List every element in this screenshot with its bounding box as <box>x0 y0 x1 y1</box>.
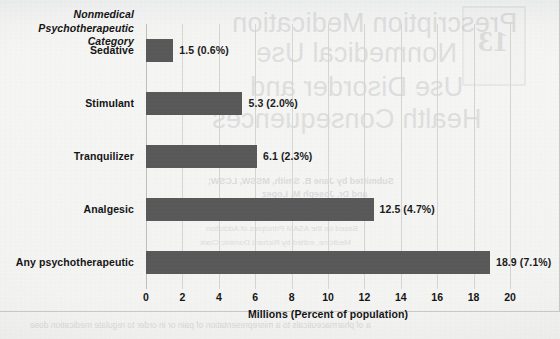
gridline-20 <box>510 24 511 289</box>
x-axis-tick-label: 4 <box>216 291 222 303</box>
y-axis-title-line-1: Nonmedical <box>0 8 134 22</box>
chart-page: Prescription Medication Nonmedical Use U… <box>0 0 560 339</box>
x-axis-tick-label: 2 <box>179 291 185 303</box>
x-axis-tick-label: 14 <box>395 291 407 303</box>
x-axis-tick-label: 8 <box>289 291 295 303</box>
bar-value-label: 6.1 (2.3%) <box>263 150 312 162</box>
bar <box>146 39 173 62</box>
bar-row: 18.9 (7.1%) <box>146 236 510 289</box>
y-axis-tick-label: Sedative <box>90 44 134 56</box>
y-axis-tick-label: Stimulant <box>85 97 134 109</box>
x-axis-tick-label: 6 <box>252 291 258 303</box>
bar-row: 1.5 (0.6%) <box>146 24 510 77</box>
bar-row: 6.1 (2.3%) <box>146 130 510 183</box>
y-axis-tick-label: Analgesic <box>83 203 134 215</box>
x-axis-title: Millions (Percent of population) <box>146 308 510 320</box>
plot-area: 1.5 (0.6%)5.3 (2.0%)6.1 (2.3%)12.5 (4.7%… <box>146 24 510 289</box>
bar <box>146 198 374 221</box>
y-axis-tick-label: Tranquilizer <box>74 150 134 162</box>
bar <box>146 145 257 168</box>
bleed-footer: a of pharmaceuticals to a misrepresentat… <box>30 320 371 330</box>
bar-value-label: 12.5 (4.7%) <box>380 203 435 215</box>
x-axis-tick-label: 16 <box>431 291 443 303</box>
bar <box>146 251 490 274</box>
bar-row: 5.3 (2.0%) <box>146 77 510 130</box>
x-axis-tick-label: 12 <box>359 291 371 303</box>
y-axis-tick-label: Any psychotherapeutic <box>16 256 134 268</box>
bar-row: 12.5 (4.7%) <box>146 183 510 236</box>
x-axis-tick-label: 18 <box>468 291 480 303</box>
bar-value-label: 18.9 (7.1%) <box>496 256 551 268</box>
bar <box>146 92 242 115</box>
bar-value-label: 1.5 (0.6%) <box>179 44 228 56</box>
x-axis-tick-labels: 02468101214161820 <box>146 291 510 307</box>
bar-value-label: 5.3 (2.0%) <box>248 97 297 109</box>
x-axis-tick-label: 10 <box>322 291 334 303</box>
y-axis-tick-labels: SedativeStimulantTranquilizerAnalgesicAn… <box>0 24 140 289</box>
x-axis-tick-label: 20 <box>504 291 516 303</box>
x-axis-tick-label: 0 <box>143 291 149 303</box>
